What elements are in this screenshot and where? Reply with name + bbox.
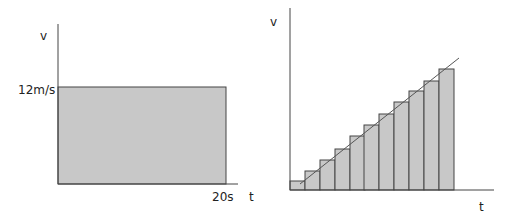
constant-velocity-chart: v 12m/s 20s t bbox=[18, 24, 254, 204]
velocity-time-diagrams: v 12m/s 20s t v t bbox=[0, 0, 513, 218]
bar bbox=[379, 114, 394, 190]
bar bbox=[335, 149, 350, 190]
bar bbox=[350, 136, 365, 190]
bar bbox=[320, 160, 335, 190]
bar bbox=[364, 125, 379, 190]
y-tick-label: 12m/s bbox=[18, 83, 55, 97]
x-axis-label: t bbox=[249, 190, 254, 204]
accelerating-chart: v t bbox=[270, 8, 494, 214]
bar bbox=[439, 69, 454, 190]
y-axis-label: v bbox=[40, 29, 47, 43]
bar bbox=[424, 81, 439, 190]
bar bbox=[394, 102, 409, 190]
bar bbox=[409, 91, 424, 190]
x-tick-label: 20s bbox=[212, 190, 234, 204]
y-axis-label: v bbox=[270, 15, 277, 29]
x-axis-label: t bbox=[479, 200, 484, 214]
displacement-area bbox=[58, 87, 226, 184]
